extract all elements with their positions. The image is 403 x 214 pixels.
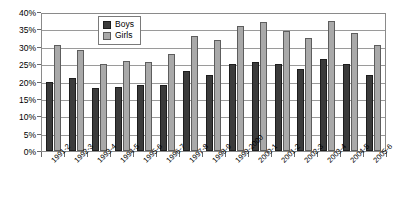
bar-boys [160,85,167,151]
chart-legend: Boys Girls [98,16,141,45]
bar-girls [168,54,175,151]
bar-girls [374,45,381,151]
bar-girls [237,26,244,151]
bar-girls [351,33,358,151]
bar-girls [100,64,107,151]
legend-item-boys: Boys [103,19,134,30]
x-axis-tick-mark [41,152,42,157]
y-axis-tick-label: 30% [0,44,36,53]
bar-chart: 0%5%10%15%20%25%30%35%40% 1991-21992-319… [0,0,403,214]
y-axis-tick-label: 15% [0,96,36,105]
bar-boys [92,88,99,151]
bar-boys [137,85,144,151]
bar-group [316,14,339,151]
legend-label-boys: Boys [115,20,134,29]
legend-swatch-girls-icon [103,32,111,40]
bar-group [271,14,294,151]
bar-group [65,14,88,151]
y-axis-tick-label: 35% [0,26,36,35]
bar-girls [283,31,290,151]
bar-girls [191,36,198,151]
bar-boys [343,64,350,151]
bar-girls [328,21,335,151]
bar-boys [115,87,122,151]
y-axis-tick-label: 25% [0,61,36,70]
bar-girls [145,62,152,151]
bar-boys [69,78,76,151]
bar-boys [229,64,236,151]
y-axis-tick-label: 10% [0,113,36,122]
bar-group [362,14,385,151]
bar-boys [297,69,304,151]
bar-group [293,14,316,151]
bar-boys [206,75,213,151]
legend-item-girls: Girls [103,30,134,41]
bar-girls [214,40,221,151]
bar-group [225,14,248,151]
bar-group [248,14,271,151]
bar-girls [54,45,61,151]
bar-girls [77,50,84,151]
bar-boys [46,82,53,152]
y-axis-tick-label: 5% [0,131,36,140]
bar-series-container [42,14,385,151]
y-axis-tick-label: 0% [0,148,36,157]
bar-group [202,14,225,151]
bar-boys [183,71,190,151]
bar-boys [275,64,282,151]
legend-swatch-boys-icon [103,21,111,29]
bar-group [156,14,179,151]
bar-girls [305,38,312,151]
legend-label-girls: Girls [115,31,132,40]
bar-girls [123,61,130,151]
y-axis-tick-label: 40% [0,9,36,18]
plot-area [41,13,386,152]
bar-group [339,14,362,151]
bar-boys [320,59,327,151]
bar-girls [260,22,267,151]
bar-boys [366,75,373,151]
bar-group [42,14,65,151]
y-axis-tick-label: 20% [0,79,36,88]
bar-group [179,14,202,151]
